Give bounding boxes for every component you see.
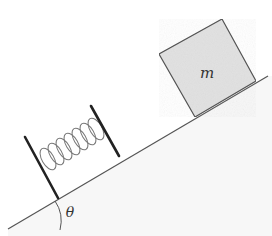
spring-right-plate <box>91 106 119 156</box>
diagram-canvas: m θ <box>0 0 272 236</box>
spring <box>37 116 107 173</box>
spring-left-plate <box>25 137 58 198</box>
mass-label: m <box>200 64 214 82</box>
incline-ground <box>8 76 272 236</box>
angle-label: θ <box>66 204 75 220</box>
incline-diagram: m θ <box>0 0 272 236</box>
